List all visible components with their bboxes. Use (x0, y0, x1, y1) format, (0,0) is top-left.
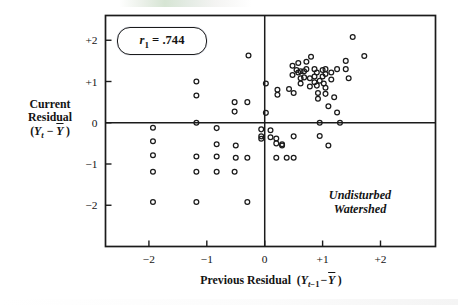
y-axis-title-line1: Current (2, 98, 98, 111)
figure-root: −2−10+1+2 −2−10+1+2 r1 = .744 Current Re… (0, 0, 458, 305)
x-tick-label: −2 (143, 253, 155, 265)
scatter-plot-canvas: −2−10+1+2 −2−10+1+2 (0, 0, 458, 305)
y-axis-title-line2: Residual (2, 111, 98, 124)
y-axis-title-line3: (Yt − Y ) (2, 125, 98, 141)
y-tick-label: −1 (85, 158, 97, 170)
x-axis-title-text: Previous Residual (200, 273, 291, 287)
correlation-value: r1 = .744 (140, 33, 185, 50)
y-tick-label: +2 (85, 34, 97, 46)
y-axis-title: Current Residual (Yt − Y ) (2, 98, 98, 141)
x-tick-label: +2 (374, 253, 386, 265)
x-tick-label: +1 (317, 253, 329, 265)
quadrant-annotation: Undisturbed Watershed (300, 188, 420, 217)
x-tick-label: −1 (201, 253, 213, 265)
correlation-badge: r1 = .744 (117, 27, 207, 55)
x-axis-title: Previous Residual (Yt−1 − Y ) (105, 273, 437, 289)
x-axis-tick-labels: −2−10+1+2 (143, 253, 387, 265)
y-tick-label: +1 (85, 76, 97, 88)
quadrant-annotation-line2: Watershed (300, 202, 420, 216)
y-tick-label: −2 (85, 199, 97, 211)
x-tick-label: 0 (262, 253, 268, 265)
quadrant-annotation-line1: Undisturbed (300, 188, 420, 202)
